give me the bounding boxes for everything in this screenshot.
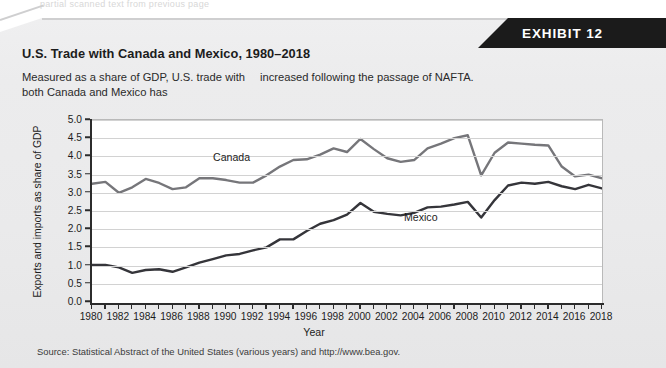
- series-label-mexico: Mexico: [404, 211, 438, 223]
- x-tick-label: 1984: [133, 311, 156, 322]
- gridlines: [92, 120, 602, 303]
- gridline: [92, 193, 602, 194]
- x-tick-mark: [588, 304, 589, 309]
- x-tick-mark: [413, 304, 414, 309]
- x-tick-mark: [292, 304, 293, 309]
- x-tick-mark: [520, 304, 521, 309]
- x-tick-label: 2000: [348, 311, 371, 322]
- x-tick-label: 2016: [563, 311, 586, 322]
- gridline: [92, 229, 602, 230]
- y-tick-label: 0.5: [58, 277, 82, 288]
- x-tick-label: 1988: [187, 311, 210, 322]
- x-tick-mark: [118, 304, 119, 309]
- gridline: [92, 138, 602, 139]
- y-tick-label: 0.0: [58, 296, 82, 307]
- x-tick-mark: [453, 304, 454, 309]
- x-tick-mark: [427, 304, 428, 309]
- x-tick-label: 1996: [294, 311, 317, 322]
- y-axis-title: Exports and imports as share of GDP: [29, 118, 45, 304]
- page-top-sliver: partial scanned text from previous page: [0, 0, 666, 18]
- y-axis-title-text: Exports and imports as share of GDP: [32, 125, 43, 297]
- x-tick-mark: [91, 304, 92, 309]
- x-tick-label: 1998: [321, 311, 344, 322]
- y-tick-label: 4.5: [58, 132, 82, 143]
- y-axis-line: [90, 119, 92, 304]
- y-tick-label: 2.0: [58, 223, 82, 234]
- x-tick-mark: [198, 304, 199, 309]
- x-tick-mark: [400, 304, 401, 309]
- x-tick-mark: [319, 304, 320, 309]
- x-tick-mark: [104, 304, 105, 309]
- x-tick-mark: [158, 304, 159, 309]
- x-tick-mark: [185, 304, 186, 309]
- x-tick-mark: [131, 304, 132, 309]
- x-tick-label: 2008: [455, 311, 478, 322]
- page-title: U.S. Trade with Canada and Mexico, 1980–…: [22, 46, 310, 61]
- subtitle-column-1: Measured as a share of GDP, U.S. trade w…: [22, 70, 260, 100]
- y-tick-mark: [85, 191, 90, 193]
- subtitle-column-2: increased following the passage of NAFTA…: [260, 70, 480, 85]
- y-tick-label: 4.0: [58, 150, 82, 161]
- x-tick-label: 2002: [375, 311, 398, 322]
- x-tick-mark: [279, 304, 280, 309]
- gridline: [92, 175, 602, 176]
- y-tick-label: 3.5: [58, 168, 82, 179]
- x-tick-label: 2004: [402, 311, 425, 322]
- y-tick-label: 2.5: [58, 205, 82, 216]
- x-tick-mark: [333, 304, 334, 309]
- x-tick-mark: [386, 304, 387, 309]
- x-tick-label: 1994: [268, 311, 291, 322]
- y-tick-mark: [85, 209, 90, 211]
- x-tick-mark: [306, 304, 307, 309]
- gridline: [92, 156, 602, 157]
- x-tick-label: 2006: [429, 311, 452, 322]
- x-tick-mark: [373, 304, 374, 309]
- x-tick-label: 2010: [482, 311, 505, 322]
- x-tick-mark: [252, 304, 253, 309]
- series-label-canada: Canada: [213, 151, 250, 163]
- x-tick-mark: [507, 304, 508, 309]
- y-tick-mark: [85, 264, 90, 266]
- ghost-text: partial scanned text from previous page: [40, 0, 209, 9]
- y-tick-label: 1.5: [58, 241, 82, 252]
- y-tick-mark: [85, 282, 90, 284]
- y-tick-label: 1.0: [58, 259, 82, 270]
- x-tick-mark: [561, 304, 562, 309]
- x-tick-mark: [494, 304, 495, 309]
- x-tick-label: 1990: [214, 311, 237, 322]
- page-subtitle: Measured as a share of GDP, U.S. trade w…: [22, 70, 492, 100]
- x-tick-label: 2018: [590, 311, 613, 322]
- gridline: [92, 247, 602, 248]
- x-tick-mark: [440, 304, 441, 309]
- x-axis-title: Year: [0, 326, 666, 338]
- exhibit-badge: EXHIBIT 12: [478, 18, 666, 48]
- y-tick-mark: [85, 136, 90, 138]
- y-tick-mark: [85, 118, 90, 120]
- x-tick-mark: [467, 304, 468, 309]
- y-tick-mark: [85, 227, 90, 229]
- x-tick-mark: [225, 304, 226, 309]
- exhibit-badge-label: EXHIBIT 12: [522, 26, 603, 41]
- x-tick-label: 1992: [241, 311, 264, 322]
- x-tick-mark: [534, 304, 535, 309]
- x-tick-label: 1980: [80, 311, 103, 322]
- gridline: [92, 266, 602, 267]
- plot-area: [91, 119, 603, 303]
- x-tick-mark: [574, 304, 575, 309]
- gridline: [92, 120, 602, 121]
- x-tick-mark: [265, 304, 266, 309]
- x-tick-mark: [239, 304, 240, 309]
- source-note: Source: Statistical Abstract of the Unit…: [37, 346, 400, 357]
- x-tick-mark: [212, 304, 213, 309]
- gridline: [92, 284, 602, 285]
- x-tick-mark: [480, 304, 481, 309]
- x-tick-mark: [601, 304, 602, 309]
- x-tick-mark: [547, 304, 548, 309]
- x-tick-label: 2014: [536, 311, 559, 322]
- x-tick-label: 1982: [106, 311, 129, 322]
- x-tick-mark: [359, 304, 360, 309]
- x-tick-label: 1986: [160, 311, 183, 322]
- x-tick-label: 2012: [509, 311, 532, 322]
- x-tick-mark: [145, 304, 146, 309]
- y-tick-label: 3.0: [58, 186, 82, 197]
